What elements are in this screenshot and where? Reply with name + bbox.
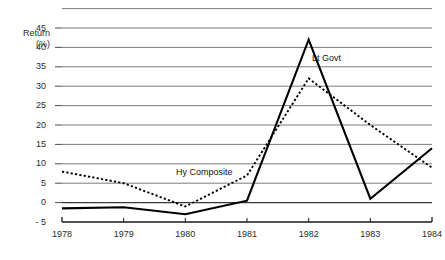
y-tick-label-5: 5: [26, 179, 46, 188]
y-tick-label-10: 10: [26, 159, 46, 168]
line-chart-plot: [0, 0, 445, 260]
series-line-lt-govt: [62, 40, 432, 215]
series-line-hy-composite: [62, 78, 432, 206]
x-tick-label-1978: 1978: [42, 230, 82, 239]
y-tick-label-45: 45: [26, 24, 46, 33]
y-tick-label--5: - 5: [26, 218, 46, 227]
chart-container: Return (%) 454035302520151050- 5 1978197…: [0, 0, 445, 260]
y-tick-label-40: 40: [26, 43, 46, 52]
x-tick-label-1984: 1984: [412, 230, 445, 239]
y-tick-label-30: 30: [26, 82, 46, 91]
y-tick-label-25: 25: [26, 101, 46, 110]
y-tick-label-0: 0: [26, 198, 46, 207]
series-group: [62, 40, 432, 215]
x-tick-label-1981: 1981: [227, 230, 267, 239]
x-tick-label-1983: 1983: [350, 230, 390, 239]
y-tick-label-35: 35: [26, 62, 46, 71]
x-tick-label-1982: 1982: [289, 230, 329, 239]
series-label-hy-composite: Hy Composite: [176, 168, 233, 177]
series-label-lt-govt: Lt Govt: [312, 54, 341, 63]
x-tick-label-1979: 1979: [104, 230, 144, 239]
x-tick-label-1980: 1980: [165, 230, 205, 239]
y-tick-label-20: 20: [26, 121, 46, 130]
y-tick-label-15: 15: [26, 140, 46, 149]
gridlines-group: [55, 9, 432, 203]
